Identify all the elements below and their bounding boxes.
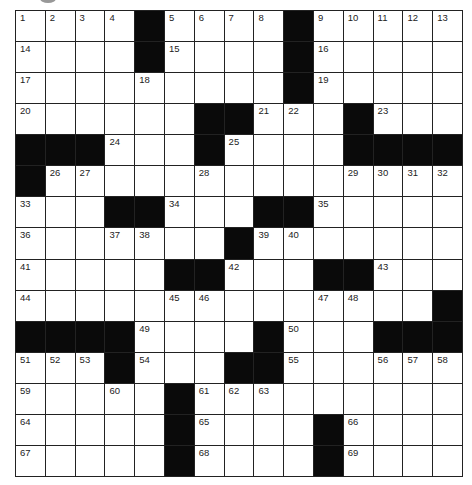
grid-cell[interactable]: [374, 384, 403, 414]
grid-cell[interactable]: [403, 42, 432, 72]
grid-cell[interactable]: [344, 73, 373, 103]
grid-cell[interactable]: 2: [46, 11, 75, 41]
grid-cell[interactable]: [225, 415, 254, 445]
grid-cell[interactable]: [403, 104, 432, 134]
grid-cell[interactable]: 56: [374, 353, 403, 383]
grid-cell[interactable]: 32: [433, 166, 462, 196]
grid-cell[interactable]: [374, 415, 403, 445]
grid-cell[interactable]: [76, 415, 105, 445]
grid-cell[interactable]: 42: [225, 260, 254, 290]
grid-cell[interactable]: 39: [254, 228, 283, 258]
grid-cell[interactable]: 1: [16, 11, 45, 41]
grid-cell[interactable]: [135, 104, 164, 134]
grid-cell[interactable]: [195, 73, 224, 103]
grid-cell[interactable]: 43: [374, 260, 403, 290]
grid-cell[interactable]: [314, 104, 343, 134]
grid-cell[interactable]: 63: [254, 384, 283, 414]
grid-cell[interactable]: [225, 322, 254, 352]
grid-cell[interactable]: 41: [16, 260, 45, 290]
grid-cell[interactable]: [165, 135, 194, 165]
grid-cell[interactable]: 36: [16, 228, 45, 258]
grid-cell[interactable]: [314, 135, 343, 165]
grid-cell[interactable]: [105, 260, 134, 290]
grid-cell[interactable]: [433, 260, 462, 290]
grid-cell[interactable]: [46, 384, 75, 414]
grid-cell[interactable]: [135, 415, 164, 445]
grid-cell[interactable]: [344, 322, 373, 352]
grid-cell[interactable]: [76, 384, 105, 414]
grid-cell[interactable]: 34: [165, 197, 194, 227]
grid-cell[interactable]: 54: [135, 353, 164, 383]
grid-cell[interactable]: [284, 446, 313, 476]
grid-cell[interactable]: 4: [105, 11, 134, 41]
grid-cell[interactable]: [314, 384, 343, 414]
grid-cell[interactable]: [46, 104, 75, 134]
grid-cell[interactable]: [46, 446, 75, 476]
grid-cell[interactable]: [46, 260, 75, 290]
grid-cell[interactable]: [374, 197, 403, 227]
grid-cell[interactable]: 3: [76, 11, 105, 41]
grid-cell[interactable]: [76, 197, 105, 227]
grid-cell[interactable]: 28: [195, 166, 224, 196]
grid-cell[interactable]: [344, 228, 373, 258]
grid-cell[interactable]: 67: [16, 446, 45, 476]
grid-cell[interactable]: [284, 415, 313, 445]
grid-cell[interactable]: [195, 228, 224, 258]
grid-cell[interactable]: 51: [16, 353, 45, 383]
grid-cell[interactable]: [46, 197, 75, 227]
grid-cell[interactable]: 49: [135, 322, 164, 352]
grid-cell[interactable]: [403, 446, 432, 476]
grid-cell[interactable]: [403, 415, 432, 445]
grid-cell[interactable]: 22: [284, 104, 313, 134]
grid-cell[interactable]: 15: [165, 42, 194, 72]
grid-cell[interactable]: [403, 73, 432, 103]
grid-cell[interactable]: [403, 291, 432, 321]
grid-cell[interactable]: [165, 166, 194, 196]
grid-cell[interactable]: 14: [16, 42, 45, 72]
grid-cell[interactable]: 18: [135, 73, 164, 103]
grid-cell[interactable]: [46, 228, 75, 258]
grid-cell[interactable]: 26: [46, 166, 75, 196]
grid-cell[interactable]: [76, 228, 105, 258]
grid-cell[interactable]: [76, 291, 105, 321]
grid-cell[interactable]: [135, 384, 164, 414]
grid-cell[interactable]: 33: [16, 197, 45, 227]
grid-cell[interactable]: 8: [254, 11, 283, 41]
grid-cell[interactable]: [105, 104, 134, 134]
grid-cell[interactable]: 44: [16, 291, 45, 321]
grid-cell[interactable]: 23: [374, 104, 403, 134]
grid-cell[interactable]: [254, 166, 283, 196]
grid-cell[interactable]: [284, 291, 313, 321]
grid-cell[interactable]: 20: [16, 104, 45, 134]
grid-cell[interactable]: 52: [46, 353, 75, 383]
grid-cell[interactable]: [225, 446, 254, 476]
grid-cell[interactable]: [165, 73, 194, 103]
grid-cell[interactable]: [135, 260, 164, 290]
grid-cell[interactable]: 24: [105, 135, 134, 165]
grid-cell[interactable]: 37: [105, 228, 134, 258]
grid-cell[interactable]: 61: [195, 384, 224, 414]
grid-cell[interactable]: [433, 73, 462, 103]
grid-cell[interactable]: [433, 228, 462, 258]
grid-cell[interactable]: [433, 104, 462, 134]
grid-cell[interactable]: [105, 42, 134, 72]
grid-cell[interactable]: 46: [195, 291, 224, 321]
grid-cell[interactable]: [225, 291, 254, 321]
grid-cell[interactable]: 12: [403, 11, 432, 41]
grid-cell[interactable]: 30: [374, 166, 403, 196]
grid-cell[interactable]: [46, 291, 75, 321]
grid-cell[interactable]: 11: [374, 11, 403, 41]
grid-cell[interactable]: [46, 73, 75, 103]
grid-cell[interactable]: [165, 104, 194, 134]
grid-cell[interactable]: [314, 322, 343, 352]
grid-cell[interactable]: 38: [135, 228, 164, 258]
grid-cell[interactable]: [403, 197, 432, 227]
grid-cell[interactable]: [135, 135, 164, 165]
grid-cell[interactable]: [135, 166, 164, 196]
grid-cell[interactable]: [195, 42, 224, 72]
grid-cell[interactable]: [374, 73, 403, 103]
grid-cell[interactable]: [433, 197, 462, 227]
grid-cell[interactable]: [105, 291, 134, 321]
grid-cell[interactable]: 59: [16, 384, 45, 414]
grid-cell[interactable]: 48: [344, 291, 373, 321]
